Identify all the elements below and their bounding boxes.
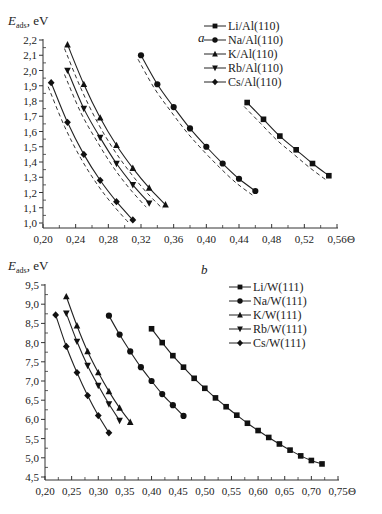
series-k-al-110- <box>64 41 169 209</box>
square-marker-icon <box>261 117 267 123</box>
triangle-down-marker-icon <box>97 135 104 141</box>
x-tick-label: 0,55 <box>222 485 242 497</box>
circle-marker-icon <box>212 37 217 42</box>
square-marker-icon <box>181 364 187 370</box>
x-tick-label: 0,75 <box>328 485 348 497</box>
square-marker-icon <box>245 420 251 426</box>
legend-item: Na/Al(110) <box>204 33 283 47</box>
y-tick-label: 6,0 <box>25 413 39 425</box>
x-tick-label: 0,56 <box>327 233 347 245</box>
y-axis-title: Eads, eV <box>7 258 49 275</box>
legend-b: Li/W(111)Na/W(111)K/W(111)Rb/W(111)Cs/W(… <box>229 280 307 350</box>
series-line <box>68 45 166 205</box>
square-marker-icon <box>238 285 243 290</box>
legend-label: Cs/W(111) <box>253 336 305 350</box>
triangle-down-marker-icon <box>95 383 102 389</box>
y-tick-label: 1,6 <box>23 126 37 138</box>
series-line <box>109 316 184 416</box>
x-tick-label: 0,32 <box>131 233 150 245</box>
y-tick-label: 2,2 <box>23 34 37 46</box>
series-na-w-111- <box>106 313 187 419</box>
square-marker-icon <box>213 24 218 29</box>
square-marker-icon <box>319 461 325 467</box>
diamond-marker-icon <box>74 369 81 376</box>
y-tick-label: 5,5 <box>25 433 39 445</box>
legend-item: Cs/Al(110) <box>204 75 282 89</box>
triangle-down-marker-icon <box>116 418 123 424</box>
x-tick-label: 0,60 <box>248 485 268 497</box>
triangle-up-marker-icon <box>106 388 113 394</box>
y-tick-label: 1,9 <box>23 80 37 92</box>
triangle-up-marker-icon <box>64 41 71 47</box>
square-marker-icon <box>287 447 293 453</box>
y-tick-label: 8,5 <box>25 317 39 329</box>
square-marker-icon <box>244 100 250 106</box>
circle-marker-icon <box>237 298 242 303</box>
circle-marker-icon <box>116 331 122 337</box>
figure-root: 1,01,11,21,31,41,51,61,71,81,92,02,12,20… <box>0 0 382 514</box>
y-tick-label: 1,8 <box>23 95 37 107</box>
y-tick-label: 8,0 <box>25 337 39 349</box>
triangle-down-marker-icon <box>64 68 71 74</box>
triangle-up-marker-icon <box>95 369 102 375</box>
circle-marker-icon <box>187 125 193 131</box>
adsorption-energy-figure: 1,01,11,21,31,41,51,61,71,81,92,02,12,20… <box>0 0 382 514</box>
y-tick-label: 7,0 <box>25 375 39 387</box>
x-tick-label: 0,25 <box>62 485 82 497</box>
x-axis-title: Θ <box>348 485 356 497</box>
circle-marker-icon <box>180 413 186 419</box>
series-rb-w-111- <box>63 311 123 425</box>
square-marker-icon <box>310 161 316 167</box>
y-tick-label: 9,5 <box>25 279 39 291</box>
series-li-al-110- <box>244 100 331 180</box>
legend-label: Rb/Al(110) <box>228 61 283 75</box>
y-tick-label: 9,0 <box>25 298 39 310</box>
x-tick-label: 0,65 <box>275 485 295 497</box>
x-tick-label: 0,20 <box>33 233 53 245</box>
legend-item: Rb/W(111) <box>229 322 307 336</box>
square-marker-icon <box>277 441 283 447</box>
triangle-up-marker-icon <box>74 322 81 328</box>
triangle-down-marker-icon <box>63 311 70 317</box>
square-marker-icon <box>326 173 332 179</box>
y-tick-label: 5,0 <box>25 452 39 464</box>
diamond-marker-icon <box>64 119 71 126</box>
legend-label: Na/W(111) <box>253 294 307 308</box>
y-tick-label: 2,0 <box>23 65 37 77</box>
x-tick-label: 0,35 <box>115 485 135 497</box>
x-tick-label: 0,44 <box>229 233 249 245</box>
diamond-marker-icon <box>212 79 218 85</box>
legend-item: Li/Al(110) <box>204 19 280 33</box>
square-marker-icon <box>213 395 219 401</box>
legend-item: Li/W(111) <box>229 280 303 294</box>
circle-marker-icon <box>171 104 177 110</box>
series-line <box>68 71 150 204</box>
circle-marker-icon <box>170 402 176 408</box>
y-tick-label: 1,0 <box>23 217 37 229</box>
y-tick-label: 4,5 <box>25 471 39 483</box>
legend-item: Rb/Al(110) <box>204 61 283 75</box>
circle-marker-icon <box>106 313 112 319</box>
x-axis-title: Θ <box>347 233 355 245</box>
y-tick-label: 1,1 <box>23 202 37 214</box>
series-rb-al-110- <box>64 68 152 207</box>
legend-item: Cs/W(111) <box>229 336 305 350</box>
square-marker-icon <box>277 133 283 139</box>
x-tick-label: 0,70 <box>302 485 322 497</box>
triangle-down-marker-icon <box>81 106 88 112</box>
square-marker-icon <box>309 458 315 464</box>
y-tick-label: 7,5 <box>25 356 39 368</box>
circle-marker-icon <box>127 348 133 354</box>
square-marker-icon <box>234 412 240 418</box>
x-tick-label: 0,52 <box>295 233 314 245</box>
legend-label: Li/Al(110) <box>228 19 280 33</box>
circle-marker-icon <box>220 160 226 166</box>
legend-item: K/Al(110) <box>204 47 278 61</box>
panel-label: a <box>198 30 205 45</box>
y-tick-label: 6,5 <box>25 394 39 406</box>
circle-marker-icon <box>203 144 209 150</box>
legend-item: Na/W(111) <box>229 294 307 308</box>
diamond-marker-icon <box>80 151 87 158</box>
square-marker-icon <box>170 353 176 359</box>
circle-marker-icon <box>138 52 144 58</box>
